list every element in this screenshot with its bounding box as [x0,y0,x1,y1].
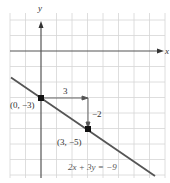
y-axis-label: y [38,4,42,13]
rise-label: −2 [92,110,102,119]
grid [10,13,165,178]
point-3-neg5 [85,126,91,132]
coordinate-plane [0,0,170,183]
x-axis-arrow-icon [157,49,164,54]
slope-triangle [41,96,90,128]
point-0-neg3 [38,95,44,101]
x-axis [10,49,164,54]
run-label: 3 [63,87,68,96]
y-axis-arrow-icon [39,21,44,28]
point1-label: (0, −3) [10,101,35,110]
x-axis-label: x [165,47,169,56]
equation-label: 2x + 3y = −9 [68,163,117,172]
point2-label: (3, −5) [57,138,82,147]
